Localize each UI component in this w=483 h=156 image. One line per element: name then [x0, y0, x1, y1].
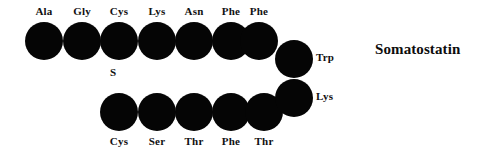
figure-title: Somatostatin [375, 41, 460, 58]
residue-label-bottom-0: Cys [100, 135, 138, 147]
residue-circle-corner-1 [275, 79, 313, 117]
residue-label-bottom-4: Thr [245, 135, 283, 147]
somatostatin-figure: AlaGlyCysLysAsnPhePheCysSerThrPheThrTrpL… [0, 0, 483, 156]
residue-label-top-4: Asn [175, 5, 213, 17]
residue-label-bottom-1: Ser [138, 135, 176, 147]
disulfide-bond-label: S [110, 66, 116, 78]
residue-label-corner-1: Lys [316, 90, 333, 102]
residue-label-top-6: Phe [240, 5, 278, 17]
residue-label-top-1: Gly [63, 5, 101, 17]
residue-label-bottom-2: Thr [175, 135, 213, 147]
residue-circle-top-3 [138, 22, 176, 60]
residue-label-top-2: Cys [100, 5, 138, 17]
residue-label-top-0: Ala [25, 5, 63, 17]
residue-circle-top-1 [63, 22, 101, 60]
residue-circle-top-0 [25, 22, 63, 60]
residue-circle-bottom-2 [175, 93, 213, 131]
residue-label-corner-0: Trp [316, 51, 334, 63]
residue-circle-bottom-0 [100, 93, 138, 131]
residue-circle-top-2 [100, 22, 138, 60]
residue-circle-corner-0 [275, 40, 313, 78]
residue-circle-top-6 [240, 22, 278, 60]
residue-label-top-3: Lys [138, 5, 176, 17]
residue-circle-bottom-1 [138, 93, 176, 131]
residue-circle-top-4 [175, 22, 213, 60]
